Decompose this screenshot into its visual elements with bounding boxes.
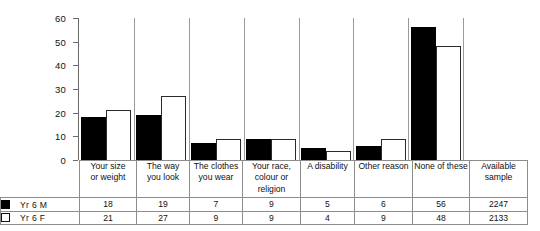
legend-label: Yr 6 M [20,199,47,211]
table-cell: 5 [301,198,355,212]
column-header: None of these [413,161,470,198]
legend-entry-m: Yr 6 M [1,198,80,212]
table-row: Yr 6 M 18197956562247 [1,198,528,212]
bar-yr6f [436,46,461,160]
y-axis-tick-label: 40 [55,60,66,71]
column-header-line: A disability [301,161,354,172]
table-cell: 2247 [470,198,528,212]
bar-yr6f [271,139,296,160]
table-cell: 27 [137,211,190,225]
bar-yr6m [191,143,216,160]
column-header-line: Your size [80,161,136,172]
bar-yr6f [161,96,186,160]
table-cell: 9 [355,211,413,225]
table-cell: 9 [243,198,301,212]
bar-group [299,18,354,160]
bar-pair [299,18,354,160]
column-header-line: The way [137,161,189,172]
legend-label: Yr 6 F [20,212,45,224]
column-header-line: Other reason [355,161,412,172]
chart-figure: 0102030405060 Your sizeor weightThe wayy… [0,0,540,231]
header-corner-cell [1,161,80,198]
bar-group [353,18,408,160]
column-header-line: you look [137,172,189,183]
y-axis-tick: 60 [73,18,78,19]
column-header: Your sizeor weight [80,161,137,198]
column-header-line: The clothes [190,161,242,172]
bar-group [408,18,463,160]
legend-entry-f: Yr 6 F [1,211,80,225]
bar-group [189,18,244,160]
column-header-line: religion [243,184,300,195]
column-header: Your race,colour orreligion [243,161,301,198]
y-axis-tick-label: 30 [55,84,66,95]
y-axis-tick: 40 [73,65,78,66]
bar-yr6m [411,27,436,160]
table-row: Yr 6 F 21279949482133 [1,211,528,225]
table-cell: 9 [243,211,301,225]
table-cell: 56 [413,198,470,212]
bar-yr6f [326,151,351,160]
bar-yr6f [216,139,241,160]
y-axis-tick-label: 60 [55,13,66,24]
bar-yr6m [246,139,271,160]
table-cell: 48 [413,211,470,225]
y-axis-tick: 30 [73,89,78,90]
column-header: The wayyou look [137,161,190,198]
bar-group [244,18,299,160]
bar-yr6f [381,139,406,160]
table-cell: 6 [355,198,413,212]
bar-yr6f [106,110,131,160]
y-axis-tick: 20 [73,113,78,114]
bar-group [463,18,518,160]
column-header: A disability [301,161,355,198]
bar-pair [79,18,134,160]
data-table-wrapper: Your sizeor weightThe wayyou lookThe clo… [0,160,540,225]
table-cell: 18 [80,198,137,212]
column-header: Other reason [355,161,413,198]
column-header-line: or weight [80,172,136,183]
bar-pair [244,18,299,160]
table-cell: 7 [190,198,243,212]
table-cell: 21 [80,211,137,225]
data-table: Your sizeor weightThe wayyou lookThe clo… [0,160,528,225]
y-axis-tick: 10 [73,136,78,137]
bar-pair [408,18,463,160]
bar-group [79,18,134,160]
table-cell: 4 [301,211,355,225]
column-header: Availablesample [470,161,528,198]
y-axis-tick-label: 50 [55,36,66,47]
chart-plot-area: 0102030405060 [78,18,518,160]
bar-pair [189,18,244,160]
bar-group [134,18,189,160]
column-header-line: sample [470,172,527,183]
bar-yr6m [356,146,381,160]
legend-swatch-open-icon [1,213,10,222]
bar-pair [134,18,189,160]
table-cell: 9 [190,211,243,225]
bar-yr6m [136,115,161,160]
bar-groups [79,18,518,160]
bar-yr6m [301,148,326,160]
column-header-line: None of these [413,161,469,172]
table-cell: 2133 [470,211,528,225]
y-axis-tick-label: 10 [55,131,66,142]
y-axis-tick: 50 [73,42,78,43]
column-header-line: you wear [190,172,242,183]
column-header-line: Available [470,161,527,172]
y-axis-tick-label: 20 [55,107,66,118]
bar-pair [353,18,408,160]
column-header-line: colour or [243,172,300,183]
bar-pair [463,18,518,160]
table-cell: 19 [137,198,190,212]
legend-swatch-filled-icon [1,200,10,209]
table-header-row: Your sizeor weightThe wayyou lookThe clo… [1,161,528,198]
column-header: The clothesyou wear [190,161,243,198]
column-header-line: Your race, [243,161,300,172]
bar-yr6m [81,117,106,160]
